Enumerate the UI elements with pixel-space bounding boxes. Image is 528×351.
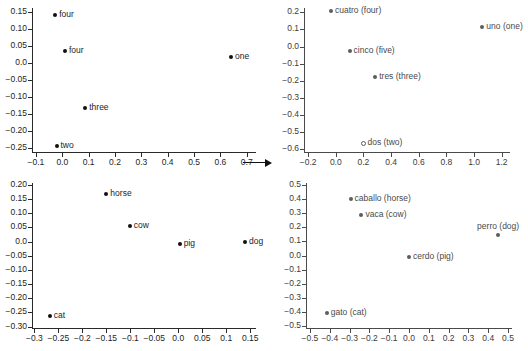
panel-english-numbers: −0.25−0.20−0.15−0.10−0.050.00.050.100.15… xyxy=(0,0,264,175)
y-axis-tick-label: 0.10 xyxy=(0,208,27,217)
data-point-label: uno (one) xyxy=(486,22,522,31)
y-axis-tick xyxy=(28,97,32,98)
y-axis-tick xyxy=(300,81,304,82)
y-axis-tick-label: 0.15 xyxy=(0,194,27,203)
data-point-label: perro (dog) xyxy=(468,222,528,231)
y-axis-tick xyxy=(28,46,32,47)
data-point-label: three xyxy=(89,103,108,112)
y-axis-tick xyxy=(302,227,306,228)
y-axis-tick xyxy=(28,148,32,149)
y-axis-tick xyxy=(28,312,32,313)
data-point xyxy=(407,255,411,259)
y-axis-line xyxy=(32,8,33,152)
data-point xyxy=(480,25,484,29)
y-axis-tick xyxy=(300,149,304,150)
y-axis-tick xyxy=(300,115,304,116)
y-axis-tick-label: −0.30 xyxy=(0,322,27,331)
data-point-label: four xyxy=(59,10,74,19)
y-axis-tick xyxy=(302,199,306,200)
data-point-label: pig xyxy=(184,239,195,248)
y-axis-tick-label: −0.3 xyxy=(268,93,299,102)
y-axis-tick-label: −0.20 xyxy=(0,126,27,135)
y-axis-tick xyxy=(302,241,306,242)
y-axis-tick xyxy=(28,80,32,81)
y-axis-tick xyxy=(28,12,32,13)
y-axis-tick-label: −0.20 xyxy=(0,293,27,302)
y-axis-tick xyxy=(302,298,306,299)
data-point xyxy=(229,55,233,59)
y-axis-tick xyxy=(28,327,32,328)
y-axis-tick-label: 0.15 xyxy=(0,7,27,16)
y-axis-tick-label: 0.0 xyxy=(0,58,27,67)
data-point-label: one xyxy=(235,52,249,61)
y-axis-line xyxy=(32,183,33,328)
data-point xyxy=(178,242,182,246)
y-axis-tick xyxy=(300,29,304,30)
data-point xyxy=(359,213,363,217)
y-axis-tick xyxy=(28,242,32,243)
y-axis-line xyxy=(304,8,305,152)
y-axis-tick xyxy=(300,132,304,133)
data-point-label: dog xyxy=(249,237,263,246)
data-point xyxy=(48,314,52,318)
y-axis-tick xyxy=(28,114,32,115)
y-axis-tick-label: −0.4 xyxy=(270,307,301,316)
y-axis-tick-label: 0.5 xyxy=(270,180,301,189)
y-axis-tick xyxy=(302,326,306,327)
data-point-label: two xyxy=(61,141,74,150)
data-point-label: cow xyxy=(134,221,149,230)
y-axis-tick xyxy=(302,284,306,285)
y-axis-tick-label: 0.0 xyxy=(270,251,301,260)
y-axis-tick xyxy=(300,47,304,48)
data-point xyxy=(83,106,87,110)
y-axis-tick-label: 0.1 xyxy=(268,24,299,33)
x-axis-tick-label: 0.15 xyxy=(234,334,266,343)
y-axis-tick xyxy=(28,29,32,30)
y-axis-tick-label: −0.4 xyxy=(268,110,299,119)
y-axis-tick-label: −0.10 xyxy=(0,265,27,274)
y-axis-tick-label: −0.2 xyxy=(270,279,301,288)
y-axis-tick-label: −0.25 xyxy=(0,307,27,316)
data-point-label: cat xyxy=(54,311,65,320)
x-axis-line xyxy=(32,328,256,329)
y-axis-tick xyxy=(28,270,32,271)
data-point-label: dos (two) xyxy=(367,138,402,147)
y-axis-tick-label: 0.0 xyxy=(268,42,299,51)
data-point-label: tres (three) xyxy=(379,72,421,81)
y-axis-tick xyxy=(28,131,32,132)
y-axis-tick xyxy=(28,256,32,257)
y-axis-tick-label: 0.05 xyxy=(0,41,27,50)
y-axis-tick-label: −0.25 xyxy=(0,143,27,152)
y-axis-tick-label: −0.2 xyxy=(268,76,299,85)
panel-spanish-numbers: −0.6−0.5−0.4−0.3−0.2−0.10.00.10.2−0.20.0… xyxy=(264,0,528,175)
data-point-label: vaca (cow) xyxy=(365,210,406,219)
y-axis-tick xyxy=(28,298,32,299)
data-point xyxy=(243,240,247,244)
data-point-label: horse xyxy=(110,189,131,198)
data-point-label: cerdo (pig) xyxy=(413,252,454,261)
y-axis-tick xyxy=(28,284,32,285)
y-axis-tick xyxy=(302,256,306,257)
y-axis-tick-label: 0.1 xyxy=(270,236,301,245)
y-axis-tick-label: −0.5 xyxy=(270,321,301,330)
y-axis-tick xyxy=(300,64,304,65)
y-axis-tick-label: −0.3 xyxy=(270,293,301,302)
data-point xyxy=(128,224,132,228)
data-point xyxy=(63,49,67,53)
y-axis-tick xyxy=(300,98,304,99)
data-point-label: gato (cat) xyxy=(331,308,367,317)
x-axis-tick-label: 1.2 xyxy=(486,158,518,167)
y-axis-tick-label: −0.1 xyxy=(270,265,301,274)
y-axis-tick-label: −0.10 xyxy=(0,92,27,101)
y-axis-tick xyxy=(28,63,32,64)
data-point xyxy=(325,311,329,315)
y-axis-tick xyxy=(302,185,306,186)
y-axis-tick-label: −0.15 xyxy=(0,279,27,288)
y-axis-tick xyxy=(28,227,32,228)
y-axis-tick-label: 0.10 xyxy=(0,24,27,33)
y-axis-tick-label: 0.20 xyxy=(0,180,27,189)
figure-root: −0.25−0.20−0.15−0.10−0.050.00.050.100.15… xyxy=(0,0,528,351)
y-axis-tick-label: −0.15 xyxy=(0,109,27,118)
y-axis-tick-label: −0.1 xyxy=(268,59,299,68)
y-axis-tick-label: 0.0 xyxy=(0,237,27,246)
